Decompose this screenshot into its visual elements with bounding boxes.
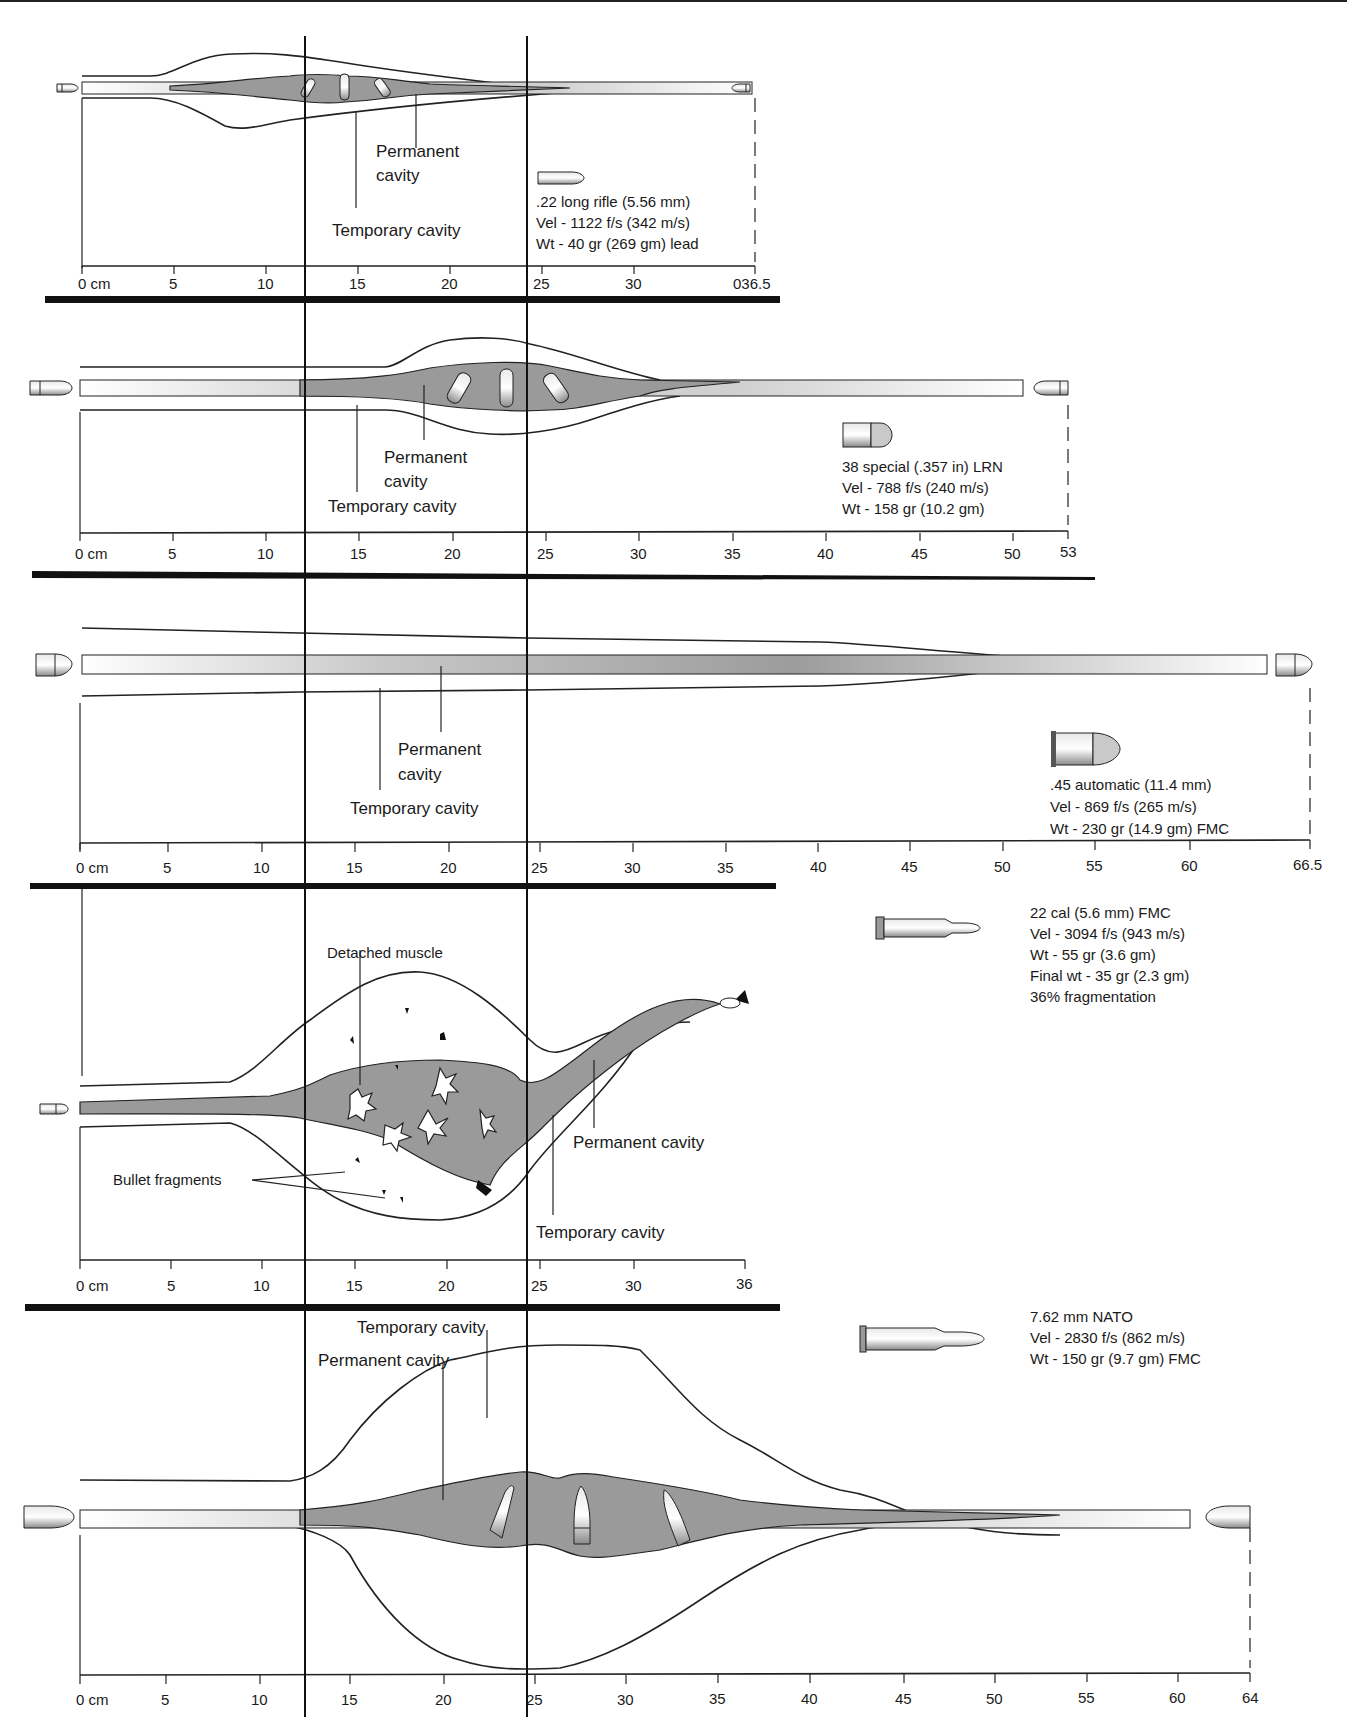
cartridge-name: 7.62 mm NATO	[1030, 1308, 1133, 1325]
permanent-cavity-label-2: cavity	[384, 472, 428, 491]
tick-label: 25	[533, 275, 550, 292]
permanent-cavity-label-2: cavity	[398, 765, 442, 784]
tick-label: 50	[1004, 545, 1021, 562]
tick-label: 25	[531, 859, 548, 876]
cartridge-icon	[843, 423, 892, 447]
tick-label: 36	[736, 1275, 753, 1292]
tick-label: 15	[346, 859, 363, 876]
tumbling-bullet-2	[500, 369, 513, 407]
cartridge-icon	[1051, 731, 1120, 767]
tick-label: 5	[169, 275, 177, 292]
tick-label: 15	[349, 275, 366, 292]
cartridge-velocity: Vel - 1122 f/s (342 m/s)	[536, 214, 690, 231]
permanent-cavity-label: Permanent cavity	[573, 1133, 705, 1152]
panel-separator	[30, 883, 776, 889]
tick-label: 30	[625, 1277, 642, 1294]
panel-separator	[45, 296, 780, 303]
permanent-cavity-label-2: cavity	[376, 166, 420, 185]
entry-bullet-icon	[36, 654, 72, 676]
cartridge-velocity: Vel - 788 f/s (240 m/s)	[842, 479, 989, 496]
cartridge-name: .22 long rifle (5.56 mm)	[536, 193, 690, 210]
tick-label: 20	[438, 1277, 455, 1294]
wound-track	[82, 655, 1267, 674]
exit-bullet-icon	[1276, 654, 1312, 676]
permanent-cavity-label-1: Permanent	[384, 448, 467, 467]
permanent-cavity	[170, 75, 570, 103]
detached-muscle-label: Detached muscle	[327, 944, 443, 961]
tick-label: 10	[251, 1691, 268, 1708]
cartridge-name: .45 automatic (11.4 mm)	[1050, 776, 1211, 793]
tick-label: 25	[531, 1277, 548, 1294]
tick-label: 45	[911, 545, 928, 562]
tick-label: 55	[1078, 1689, 1095, 1706]
cartridge-icon	[538, 172, 584, 184]
exit-fragment	[720, 998, 740, 1008]
cartridge-weight: Wt - 55 gr (3.6 gm)	[1030, 946, 1156, 963]
tick-label: 25	[537, 545, 554, 562]
tick-label: 50	[994, 858, 1011, 875]
tick-label: 10	[257, 275, 274, 292]
tick-label: 0 cm	[76, 859, 109, 876]
exit-bullet-icon	[732, 84, 750, 92]
tick-label: 10	[253, 859, 270, 876]
cartridge-icon	[860, 1326, 984, 1352]
tick-label: 30	[625, 275, 642, 292]
cartridge-weight: Wt - 158 gr (10.2 gm)	[842, 500, 985, 517]
tick-label: 15	[346, 1277, 363, 1294]
permanent-cavity-label-1: Permanent	[376, 142, 459, 161]
tick-label: 60	[1181, 857, 1198, 874]
tick-label: 20	[440, 859, 457, 876]
panel-separator	[32, 571, 1095, 580]
panel-7-62-nato: Temporary cavity Permanent cavity 7.62 m…	[24, 1308, 1259, 1708]
tick-label: 55	[1086, 857, 1103, 874]
tick-label: 15	[350, 545, 367, 562]
tick-label: 5	[168, 545, 176, 562]
depth-axis: 0 cm 5 10 15 20 25 30 036.5	[78, 266, 771, 292]
temporary-cavity-label: Temporary cavity	[350, 799, 479, 818]
tick-label: 35	[717, 859, 734, 876]
tick-label: 60	[1169, 1689, 1186, 1706]
tick-label: 10	[253, 1277, 270, 1294]
panel-22-long-rifle: Permanent cavity Temporary cavity .22 lo…	[45, 53, 780, 303]
tick-label: 35	[724, 545, 741, 562]
cartridge-velocity: Vel - 2830 f/s (862 m/s)	[1030, 1329, 1185, 1346]
tick-label: 40	[817, 545, 834, 562]
cartridge-velocity: Vel - 869 f/s (265 m/s)	[1050, 798, 1197, 815]
tick-label: 5	[167, 1277, 175, 1294]
tick-label: 30	[617, 1691, 634, 1708]
depth-axis: 0 cm 5 10 15 20 25 30 36	[76, 1260, 753, 1294]
tick-label: 5	[163, 859, 171, 876]
tick-label: 20	[435, 1691, 452, 1708]
tick-label: 40	[801, 1690, 818, 1707]
tick-label: 5	[161, 1691, 169, 1708]
cartridge-name: 22 cal (5.6 mm) FMC	[1030, 904, 1171, 921]
panel-38-special: Permanent cavity Temporary cavity 38 spe…	[30, 338, 1095, 580]
tick-label: 53	[1060, 543, 1077, 560]
panel-22-cal-fmc: Detached muscle Bullet fragments Permane…	[25, 889, 1189, 1311]
tumbling-bullet-2	[340, 74, 349, 100]
tick-label: 10	[257, 545, 274, 562]
temporary-cavity-label: Temporary cavity	[332, 221, 461, 240]
temporary-cavity-label: Temporary cavity	[328, 497, 457, 516]
fragmentation-percent: 36% fragmentation	[1030, 988, 1156, 1005]
tick-label: 45	[895, 1690, 912, 1707]
cartridge-weight: Wt - 40 gr (269 gm) lead	[536, 235, 699, 252]
wound-profile-figure: Permanent cavity Temporary cavity .22 lo…	[0, 0, 1347, 1717]
tick-label: 15	[341, 1691, 358, 1708]
cartridge-icon	[876, 917, 980, 939]
tick-label: 30	[624, 859, 641, 876]
depth-axis: 0 cm 5 10 15 20 25 30 35 40 45 50 53	[75, 531, 1077, 562]
tick-label: 45	[901, 858, 918, 875]
permanent-cavity-label: Permanent cavity	[318, 1351, 450, 1370]
entry-bullet-icon	[24, 1506, 74, 1528]
tick-label: 20	[444, 545, 461, 562]
cartridge-weight: Wt - 230 gr (14.9 gm) FMC	[1050, 820, 1229, 837]
entry-bullet-icon	[40, 1104, 68, 1114]
entry-bullet-icon	[57, 84, 78, 92]
tick-label: 64	[1242, 1689, 1259, 1706]
cartridge-name: 38 special (.357 in) LRN	[842, 458, 1003, 475]
cartridge-weight: Wt - 150 gr (9.7 gm) FMC	[1030, 1350, 1201, 1367]
permanent-cavity	[80, 999, 720, 1185]
tick-label: 0 cm	[75, 545, 108, 562]
depth-axis: 0 cm 5 10 15 20 25 30 35 40 45 50 55 60 …	[76, 1673, 1259, 1708]
